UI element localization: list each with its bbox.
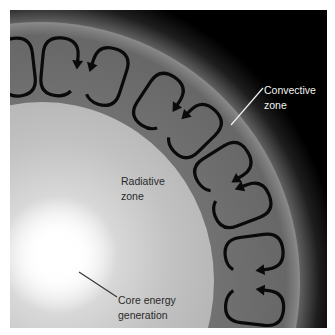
diagram-canvas [10, 10, 327, 328]
radiative-zone-label: Radiative zone [121, 174, 165, 204]
convective-zone-label: Convective zone [264, 83, 316, 113]
core-energy-label: Core energy generation [118, 293, 176, 323]
sun-interior-diagram: Convective zone Radiative zone Core ener… [10, 10, 327, 328]
core-label-line2: generation [118, 308, 176, 323]
radiative-label-line2: zone [121, 189, 165, 204]
convective-label-line1: Convective [264, 83, 316, 98]
convective-label-line2: zone [264, 98, 316, 113]
core-label-line1: Core energy [118, 293, 176, 308]
radiative-label-line1: Radiative [121, 174, 165, 189]
